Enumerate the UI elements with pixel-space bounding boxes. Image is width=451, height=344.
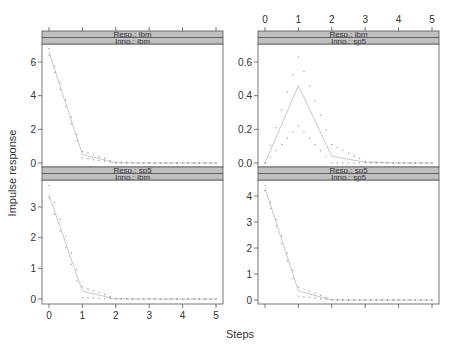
band-point <box>281 236 282 237</box>
band-point <box>132 298 133 299</box>
band-point <box>270 145 271 146</box>
band-point <box>48 48 49 49</box>
band-point <box>314 297 315 298</box>
band-point <box>76 140 77 141</box>
panel-bottom-left: Resp.: sp5Inno.: ibm0123012345 <box>30 166 223 321</box>
band-point <box>59 82 60 83</box>
x-tick-label: 0 <box>46 310 52 321</box>
band-point <box>59 230 60 231</box>
band-point <box>298 56 299 57</box>
y-tick-label: 3 <box>30 202 36 213</box>
x-tick-label: 4 <box>396 14 402 25</box>
band-point <box>160 298 161 299</box>
strip-label: Inno.: ibm <box>115 173 150 182</box>
band-point <box>182 298 183 299</box>
band-point <box>337 162 338 163</box>
band-point <box>359 162 360 163</box>
band-point <box>98 156 99 157</box>
band-point <box>415 162 416 163</box>
band-point <box>337 147 338 148</box>
band-point <box>387 299 388 300</box>
band-point <box>275 225 276 226</box>
band-point <box>365 161 366 162</box>
panel-bottom-right: Resp.: sp5Inno.: sp501234 <box>246 166 439 308</box>
band-point <box>182 162 183 163</box>
y-tick-label: 4 <box>30 90 36 101</box>
band-point <box>82 157 83 158</box>
band-point <box>187 298 188 299</box>
band-point <box>303 71 304 72</box>
x-tick-label: 5 <box>213 310 219 321</box>
y-tick-label: 0.6 <box>238 57 252 68</box>
band-point <box>98 292 99 293</box>
band-point <box>48 197 49 198</box>
band-point <box>199 298 200 299</box>
band-point <box>121 298 122 299</box>
band-point <box>314 293 315 294</box>
band-point <box>65 247 66 248</box>
band-point <box>431 162 432 163</box>
band-point <box>292 74 293 75</box>
x-tick-label: 5 <box>429 14 435 25</box>
band-point <box>320 150 321 151</box>
band-point <box>176 298 177 299</box>
band-point <box>387 162 388 163</box>
band-point <box>275 150 276 151</box>
band-point <box>93 290 94 291</box>
band-point <box>292 278 293 279</box>
band-point <box>149 298 150 299</box>
band-point <box>193 162 194 163</box>
impulse-response-chart: Resp.: ibmInno.: ibm0246Resp.: ibmInno.:… <box>0 0 451 344</box>
band-point <box>264 185 265 186</box>
band-point <box>420 299 421 300</box>
y-tick-label: 0.2 <box>238 124 252 135</box>
y-tick-label: 2 <box>30 232 36 243</box>
band-point <box>71 252 72 253</box>
band-point <box>171 298 172 299</box>
panel-top-right: Resp.: ibmInno.: sp50.00.20.40.6012345 <box>238 14 439 169</box>
y-tick-label: 4 <box>246 191 252 202</box>
band-point <box>65 106 66 107</box>
band-point <box>409 299 410 300</box>
x-tick-label: 3 <box>362 14 368 25</box>
band-point <box>76 280 77 281</box>
band-point <box>137 162 138 163</box>
strip-label: Inno.: ibm <box>115 37 150 46</box>
y-tick-label: 0.0 <box>238 158 252 169</box>
band-point <box>82 286 83 287</box>
x-tick-label: 1 <box>80 310 86 321</box>
band-point <box>215 298 216 299</box>
band-point <box>104 161 105 162</box>
plot-area <box>42 44 223 167</box>
band-point <box>314 144 315 145</box>
band-point <box>110 160 111 161</box>
band-point <box>320 295 321 296</box>
band-point <box>370 299 371 300</box>
x-tick-label: 2 <box>113 310 119 321</box>
band-point <box>398 162 399 163</box>
band-point <box>348 299 349 300</box>
band-point <box>370 161 371 162</box>
band-point <box>54 202 55 203</box>
band-point <box>115 298 116 299</box>
band-point <box>110 298 111 299</box>
y-tick-label: 0 <box>30 158 36 169</box>
strip-label: Inno.: sp5 <box>331 37 367 46</box>
band-point <box>292 131 293 132</box>
band-point <box>93 154 94 155</box>
band-point <box>104 298 105 299</box>
band-point <box>210 162 211 163</box>
band-point <box>365 299 366 300</box>
y-tick-label: 0 <box>30 294 36 305</box>
panel-top-left: Resp.: ibmInno.: ibm0246 <box>30 27 223 169</box>
band-point <box>71 264 72 265</box>
y-tick-label: 2 <box>246 243 252 254</box>
band-point <box>409 162 410 163</box>
x-tick-label: 4 <box>180 310 186 321</box>
y-tick-label: 2 <box>30 124 36 135</box>
band-point <box>121 162 122 163</box>
band-point <box>320 115 321 116</box>
band-point <box>348 152 349 153</box>
band-point <box>359 158 360 159</box>
band-point <box>165 298 166 299</box>
